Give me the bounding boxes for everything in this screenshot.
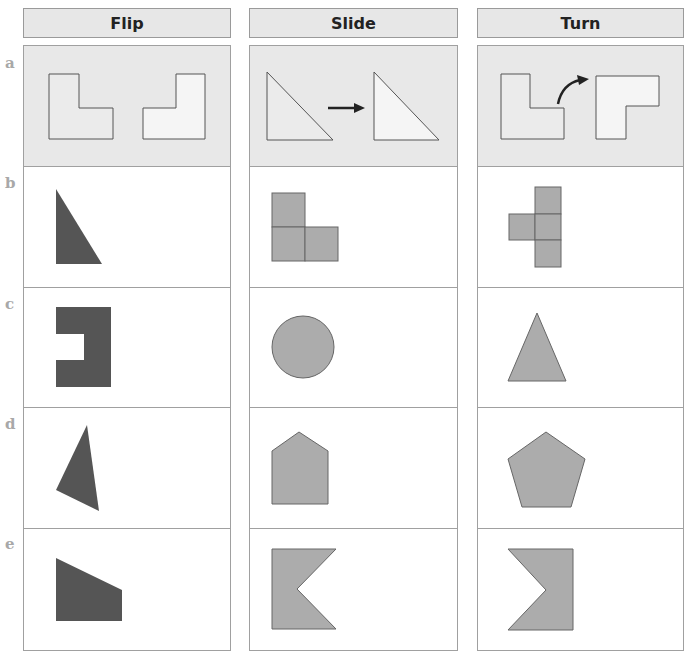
house-pentagon-icon [250, 408, 459, 529]
right-triangle-icon [24, 167, 232, 288]
cell-b-slide [249, 167, 458, 288]
notched-flag-icon [250, 529, 459, 651]
cell-d-slide [249, 408, 458, 529]
cell-c-slide [249, 288, 458, 408]
isosceles-triangle-icon [478, 288, 685, 408]
row-label-c: c [5, 295, 14, 313]
cell-a-flip [23, 45, 231, 167]
row-label-a: a [5, 54, 15, 72]
pentagon-icon [478, 408, 685, 529]
cell-a-turn [477, 45, 684, 167]
cell-b-flip [23, 167, 231, 288]
cell-e-turn [477, 529, 684, 651]
circle-icon [250, 288, 459, 408]
row-label-d: d [5, 415, 16, 433]
arrow-right-icon [354, 103, 365, 113]
curved-arrow-icon [558, 80, 580, 104]
cell-d-turn [477, 408, 684, 529]
cell-b-turn [477, 167, 684, 288]
cell-c-turn [477, 288, 684, 408]
row-label-e: e [5, 535, 15, 553]
cell-e-slide [249, 529, 458, 651]
column-header-flip: Flip [23, 8, 231, 38]
l-tromino-icon [250, 167, 459, 288]
t-tetromino-icon [478, 167, 685, 288]
l-shape-mirror-icon [24, 46, 232, 168]
column-header-turn: Turn [477, 8, 684, 38]
notched-shape-icon [478, 529, 685, 651]
cell-e-flip [23, 529, 231, 651]
l-shape-turn-icon [478, 46, 685, 168]
trapezoid-icon [24, 529, 232, 651]
column-header-slide: Slide [249, 8, 458, 38]
triangle-slide-icon [250, 46, 459, 168]
cell-d-flip [23, 408, 231, 529]
cell-a-slide [249, 45, 458, 167]
c-shape-icon [24, 288, 232, 408]
scalene-triangle-icon [24, 408, 232, 529]
cell-c-flip [23, 288, 231, 408]
row-label-b: b [5, 174, 16, 192]
